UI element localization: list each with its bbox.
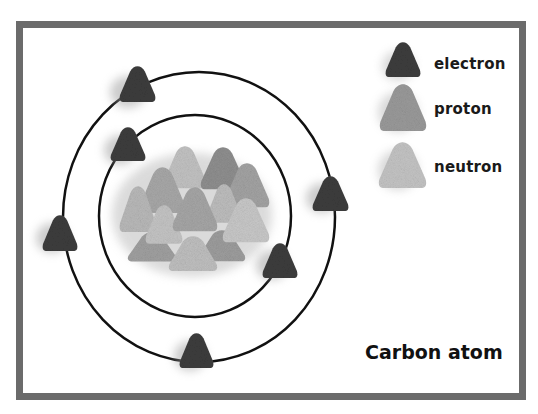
legend-electron-label: electron [434,55,506,73]
legend-electron-icon [386,42,421,77]
legend-proton-icon [380,84,426,131]
legend-neutron-label: neutron [434,158,502,176]
legend [378,42,426,190]
electron-icon [120,66,156,102]
legend-proton-label: proton [434,100,492,118]
electron-icon [43,215,78,251]
legend-neutron-icon [379,142,426,188]
electron-icon [263,243,298,278]
electron-icon [313,176,349,211]
diagram-title: Carbon atom [365,341,503,363]
electron-icon [180,333,214,368]
